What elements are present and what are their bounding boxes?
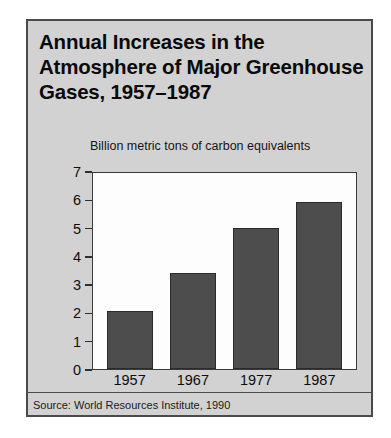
page-title: Annual Increases in the Atmosphere of Ma… [39,29,364,104]
y-axis-tick: 1 [73,335,92,349]
source-caption: Source: World Resources Institute, 1990 [33,399,230,411]
bar-slot [296,173,342,369]
source-divider [28,392,371,394]
y-axis-tick-label: 3 [73,278,85,292]
y-axis-tick-mark [85,228,92,230]
y-axis-tick-mark [85,313,92,315]
y-axis-tick-label: 7 [73,165,85,179]
x-axis-tick-label: 1957 [107,372,153,388]
x-axis: 1957196719771987 [92,372,357,388]
y-axis-tick-mark [85,171,92,173]
y-axis-tick: 6 [73,193,92,207]
x-axis-tick-label: 1977 [233,372,279,388]
y-axis-tick-mark [85,369,92,371]
y-axis: 76543210 [28,158,92,370]
plot-area [92,172,357,370]
x-axis-tick-label: 1987 [296,372,342,388]
chart-bar[interactable] [170,273,216,369]
x-axis-tick-label: 1967 [170,372,216,388]
y-axis-tick-mark [85,200,92,202]
bar-slot [170,173,216,369]
y-axis-tick: 7 [73,165,92,179]
figure-frame: Annual Increases in the Atmosphere of Ma… [26,19,373,417]
bar-slot [107,173,153,369]
y-axis-tick: 3 [73,278,92,292]
y-axis-tick-label: 0 [73,363,85,377]
y-axis-tick-mark [85,341,92,343]
y-axis-tick: 4 [73,250,92,264]
y-axis-tick-label: 1 [73,335,85,349]
chart-bar[interactable] [296,202,342,369]
y-axis-tick-mark [85,256,92,258]
chart-bar[interactable] [233,228,279,369]
bar-slot [233,173,279,369]
chart-plot-region: 76543210 1957196719771987 [28,158,371,373]
chart-bar[interactable] [107,311,153,369]
y-axis-tick: 2 [73,306,92,320]
bars-layer [93,173,356,369]
chart-subtitle: Billion metric tons of carbon equivalent… [90,139,370,153]
y-axis-tick: 0 [73,363,92,377]
y-axis-tick: 5 [73,222,92,236]
y-axis-tick-label: 2 [73,306,85,320]
y-axis-tick-mark [85,284,92,286]
y-axis-tick-label: 6 [73,193,85,207]
y-axis-tick-label: 5 [73,222,85,236]
y-axis-tick-label: 4 [73,250,85,264]
